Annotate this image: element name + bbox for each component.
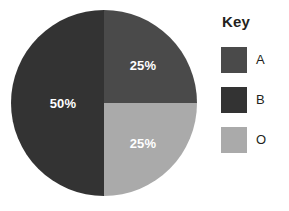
legend-title: Key: [222, 13, 287, 31]
pie-slice-label-o: 25%: [115, 136, 171, 151]
pie-slice-label-b: 50%: [35, 96, 91, 111]
legend-label-a: A: [256, 47, 265, 73]
pie-slice-label-a: 25%: [115, 58, 171, 73]
legend-swatch-b: [221, 87, 247, 113]
pie-chart-figure: 50% 25% 25% Key A B O: [0, 0, 289, 211]
legend-item-b[interactable]: B: [221, 87, 287, 113]
legend: Key A B O: [221, 13, 287, 183]
legend-swatch-a: [221, 47, 247, 73]
pie-slice-a[interactable]: [104, 10, 197, 103]
legend-swatch-o: [221, 127, 247, 153]
legend-label-o: O: [256, 127, 266, 153]
legend-item-o[interactable]: O: [221, 127, 287, 153]
legend-label-b: B: [256, 87, 265, 113]
pie-chart: 50% 25% 25%: [11, 10, 197, 196]
legend-item-a[interactable]: A: [221, 47, 287, 73]
